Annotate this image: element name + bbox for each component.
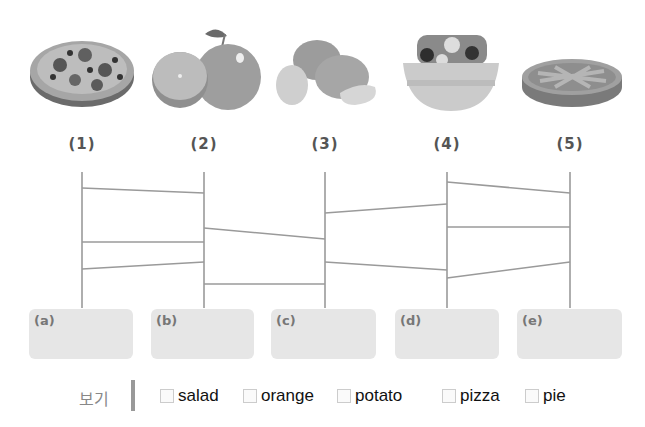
answer-box-e[interactable]: (e) [517,309,622,359]
checkbox[interactable] [442,389,456,403]
option-label: salad [178,386,219,406]
option-orange[interactable]: orange [243,386,314,406]
word-bank-divider [131,380,135,411]
option-pie[interactable]: pie [525,386,566,406]
checkbox[interactable] [525,389,539,403]
ladder-rung [325,262,447,270]
ladder-rung [204,228,325,239]
checkbox[interactable] [160,389,174,403]
checkbox[interactable] [337,389,351,403]
answer-box-c[interactable]: (c) [271,309,376,359]
ladder-rung [82,262,204,269]
answer-box-label: (a) [34,313,55,328]
option-label: orange [261,386,314,406]
answer-box-b[interactable]: (b) [151,309,254,359]
ladder-diagram [0,0,645,427]
option-label: potato [355,386,402,406]
answer-box-d[interactable]: (d) [395,309,499,359]
ladder-rung [82,188,204,193]
checkbox[interactable] [243,389,257,403]
word-bank-label: 보기 [79,386,109,410]
answer-box-label: (e) [522,313,543,328]
answer-box-label: (d) [400,313,421,328]
option-pizza[interactable]: pizza [442,386,500,406]
option-label: pie [543,386,566,406]
option-potato[interactable]: potato [337,386,402,406]
answer-box-a[interactable]: (a) [29,309,133,359]
answer-box-label: (b) [156,313,177,328]
option-salad[interactable]: salad [160,386,219,406]
ladder-rung [325,204,447,213]
answer-box-label: (c) [276,313,296,328]
ladder-rung [447,182,570,193]
option-label: pizza [460,386,500,406]
ladder-rung [447,262,570,278]
